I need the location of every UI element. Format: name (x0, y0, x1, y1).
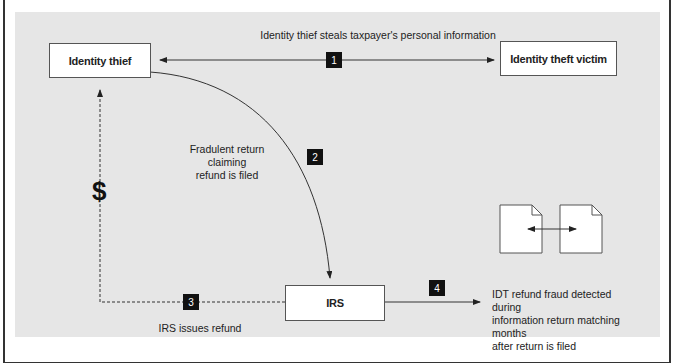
step-4-label: IDT refund fraud detected during informa… (492, 288, 632, 353)
node-identity-thief: Identity thief (49, 43, 151, 78)
step-2-label: Fradulent return claiming refund is file… (172, 143, 282, 182)
step-3-badge: 3 (183, 294, 199, 310)
step-4-badge: 4 (429, 280, 445, 296)
step-1-badge: 1 (326, 52, 342, 68)
step-2-badge: 2 (307, 149, 323, 165)
node-irs: IRS (285, 285, 385, 321)
step-2-label-line1: Fradulent return claiming (172, 143, 282, 169)
step-3-label: IRS issues refund (150, 322, 250, 335)
step-2-label-line2: refund is filed (172, 169, 282, 182)
node-identity-theft-victim: Identity theft victim (500, 41, 617, 76)
step-1-label: Identity thief steals taxpayer's persona… (238, 29, 518, 42)
step-4-label-line1: IDT refund fraud detected during (492, 288, 632, 314)
dollar-icon: $ (92, 176, 106, 207)
step-4-label-line3: after return is filed (492, 340, 632, 353)
step-4-label-line2: information return matching months (492, 314, 632, 340)
